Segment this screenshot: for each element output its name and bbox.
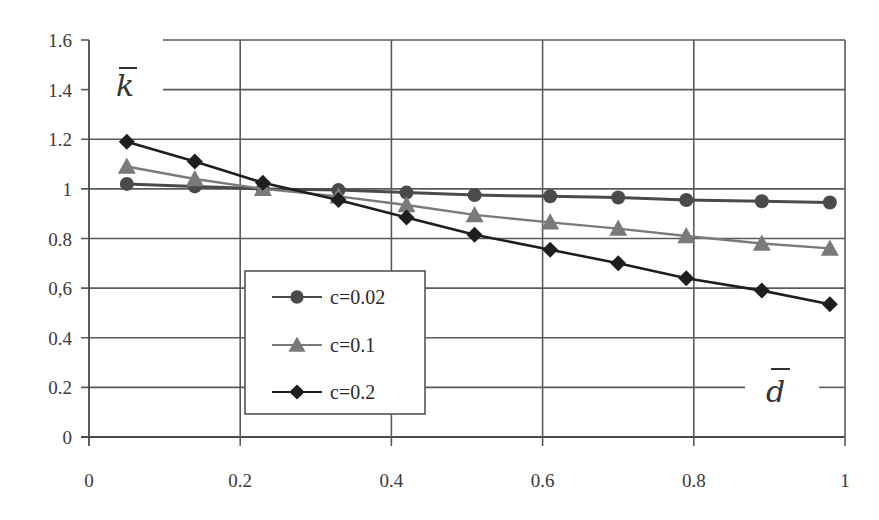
y-tick-label: 0.2 [48, 377, 72, 398]
y-tick-label: 0.4 [48, 328, 72, 349]
x-axis-tick-labels: 00.20.40.60.81 [84, 470, 850, 491]
y-axis-label: k [116, 68, 137, 103]
y-tick-label: 1.4 [48, 80, 72, 101]
x-axis-variable: d [766, 374, 785, 409]
x-tick-label: 0.8 [682, 470, 706, 491]
y-tick-label: 1 [63, 179, 73, 200]
legend-label: c=0.1 [330, 334, 375, 356]
diamond-marker [754, 283, 770, 299]
y-tick-label: 1.2 [48, 129, 72, 150]
circle-marker [679, 193, 693, 207]
y-axis-variable: k [116, 68, 134, 103]
triangle-marker [118, 158, 136, 174]
series-diamond [119, 134, 838, 313]
grid-lines [81, 40, 845, 446]
legend-label: c=0.02 [330, 286, 385, 308]
diamond-marker [330, 192, 346, 208]
circle-marker [611, 191, 625, 205]
x-tick-label: 0.4 [380, 470, 404, 491]
y-tick-label: 0.8 [48, 229, 72, 250]
y-tick-label: 0,6 [48, 278, 72, 299]
series-line [127, 142, 830, 305]
circle-marker [468, 188, 482, 202]
circle-marker [120, 177, 134, 191]
diamond-marker [610, 255, 626, 271]
circle-marker [755, 194, 769, 208]
diamond-marker [542, 242, 558, 258]
x-tick-label: 0.6 [531, 470, 555, 491]
legend: c=0.02c=0.1c=0.2 [245, 271, 425, 414]
y-axis-tick-labels: 00.20.40,60.811.21.41.6 [48, 30, 72, 448]
y-tick-label: 0 [63, 427, 73, 448]
circle-marker [823, 196, 837, 210]
x-axis-label: d [766, 369, 790, 409]
diamond-marker [187, 154, 203, 170]
diamond-marker [678, 270, 694, 286]
diamond-marker [822, 296, 838, 312]
line-chart: 00.20.40,60.811.21.41.6 00.20.40.60.81 k… [0, 0, 879, 520]
legend-label: c=0.2 [330, 381, 375, 403]
y-tick-label: 1.6 [48, 30, 72, 51]
x-tick-label: 0 [84, 470, 94, 491]
circle-marker [543, 189, 557, 203]
x-tick-label: 1 [840, 470, 850, 491]
data-series [118, 134, 839, 313]
diamond-marker [467, 227, 483, 243]
circle-marker [290, 290, 303, 303]
series-circle [120, 177, 837, 210]
diamond-marker [119, 134, 135, 150]
x-tick-label: 0.2 [228, 470, 252, 491]
